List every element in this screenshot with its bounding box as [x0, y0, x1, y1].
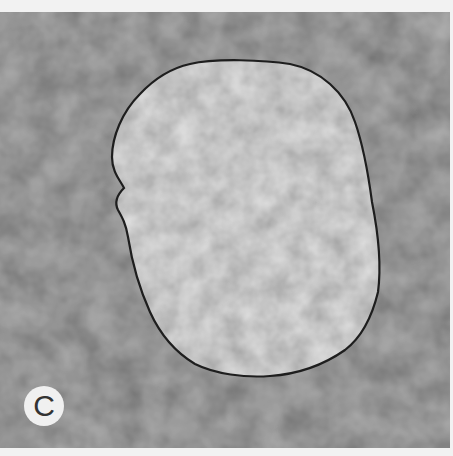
- micrograph-image: [0, 12, 450, 448]
- nucleus-illustration: [0, 12, 450, 448]
- figure-panel: C: [0, 0, 453, 456]
- panel-label-badge: C: [24, 386, 64, 426]
- panel-label-text: C: [33, 391, 55, 421]
